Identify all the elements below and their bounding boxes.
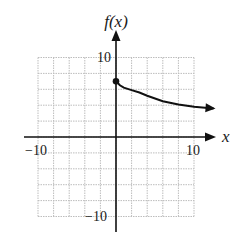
y-tick-pos10: 10	[97, 50, 111, 65]
x-tick-neg10: −10	[25, 143, 47, 158]
x-tick-pos10: 10	[186, 143, 200, 158]
function-graph: f(x) x −10 10 10 −10	[0, 0, 244, 235]
function-curve	[116, 81, 214, 108]
y-axis-label: f(x)	[104, 12, 128, 31]
curve-arrow-icon	[205, 103, 215, 112]
start-point-dot	[113, 78, 120, 85]
y-axis-arrow-icon	[112, 30, 121, 41]
x-axis-arrow-icon	[205, 133, 216, 142]
x-axis-label: x	[221, 127, 230, 146]
y-tick-neg10: −10	[85, 209, 107, 224]
